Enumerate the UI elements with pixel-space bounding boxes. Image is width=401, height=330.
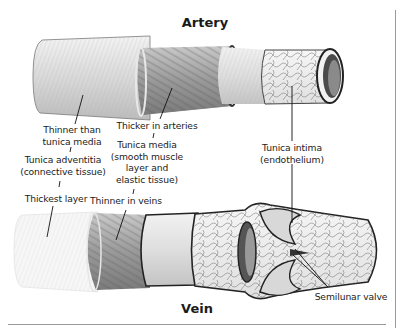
tunica-intima-label: Tunica intima (endothelium)	[260, 142, 324, 165]
media-vein-note: Thinner in veins	[90, 195, 162, 207]
semilunar-valve-label: Semilunar valve	[315, 291, 388, 303]
artery-title: Artery	[182, 15, 228, 30]
adventitia-artery-note: Thinner than tunica media	[43, 124, 102, 147]
frame-right-border	[395, 10, 396, 328]
frame-bottom-border	[8, 324, 386, 325]
tunica-media-label: Tunica media (smooth muscle layer and el…	[111, 139, 183, 185]
artery-vein-diagram: Artery Vein Thinner than tunica media Tu…	[0, 0, 401, 330]
media-artery-note: Thicker in arteries	[116, 120, 197, 132]
tunica-adventitia-label: Tunica adventitia (connective tissue)	[20, 154, 106, 177]
vein-title: Vein	[181, 301, 213, 316]
adventitia-vein-note: Thickest layer	[25, 193, 88, 205]
